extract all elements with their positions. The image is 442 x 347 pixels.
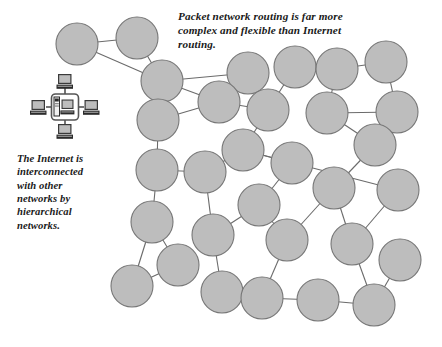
network-node [137, 99, 179, 141]
client-computer-right-icon [83, 100, 100, 115]
network-node [266, 219, 308, 261]
network-node [365, 41, 407, 83]
network-node [198, 81, 240, 123]
top-caption: Packet network routing is far more compl… [178, 9, 343, 51]
lan-cluster-svg [28, 72, 102, 142]
client-computer-left-icon [30, 100, 47, 115]
network-node [116, 17, 158, 59]
network-node [247, 89, 289, 131]
network-node [192, 214, 234, 256]
network-node [238, 184, 280, 226]
network-node [313, 167, 355, 209]
network-node [379, 239, 421, 281]
network-node [136, 149, 178, 191]
internet-lan-cluster-icon [28, 72, 102, 142]
network-node [141, 60, 183, 102]
network-node-layer [56, 17, 421, 326]
network-node [271, 142, 313, 184]
network-node [316, 48, 358, 90]
client-computer-top-icon [57, 74, 74, 89]
network-node [111, 265, 153, 307]
network-node [56, 23, 98, 65]
network-node [353, 284, 395, 326]
central-desktop-icon [60, 100, 74, 115]
client-computer-bottom-icon [57, 124, 74, 139]
network-node [241, 277, 283, 319]
network-node [297, 279, 339, 321]
network-node [184, 151, 226, 193]
network-node [354, 124, 396, 166]
network-node [222, 129, 264, 171]
network-node [306, 92, 348, 134]
network-node [157, 244, 199, 286]
network-node [274, 46, 316, 88]
network-node [377, 169, 419, 211]
network-diagram-figure: Packet network routing is far more compl… [0, 0, 442, 347]
network-node [131, 201, 173, 243]
left-caption: The Internet is interconnected with othe… [17, 152, 83, 232]
network-node [201, 271, 243, 313]
server-tower-icon [54, 97, 60, 116]
network-node [331, 223, 373, 265]
